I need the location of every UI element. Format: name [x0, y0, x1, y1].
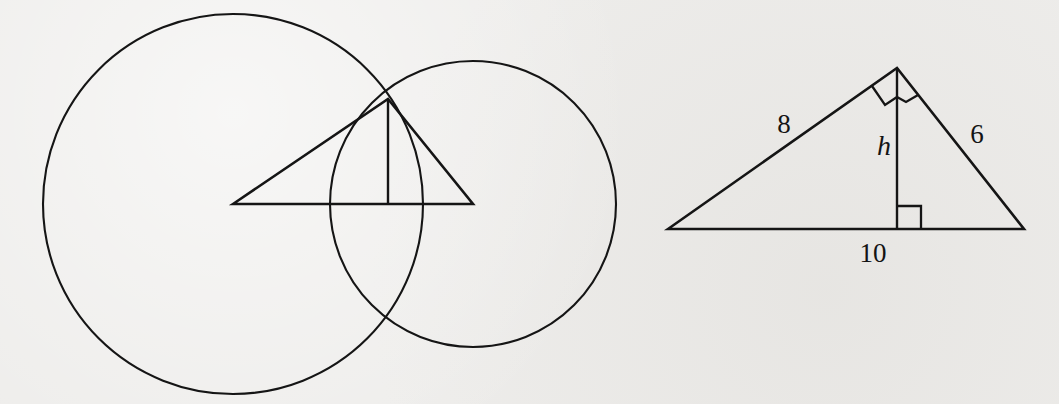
label-right-leg: 6	[970, 119, 984, 149]
label-altitude: h	[877, 130, 891, 161]
compass-construction-panel	[43, 14, 616, 394]
figure-page: 8 6 10 h	[0, 0, 1059, 404]
foot-right-angle-mark	[897, 206, 921, 229]
geometry-figure: 8 6 10 h	[0, 0, 1059, 404]
inscribed-triangle	[233, 99, 473, 204]
label-left-leg: 8	[777, 109, 791, 139]
apex-right-angle-mark-right	[897, 95, 918, 102]
label-hypotenuse: 10	[860, 238, 887, 268]
right-triangle-panel: 8 6 10 h	[668, 68, 1024, 268]
apex-right-angle-mark-left	[872, 86, 897, 105]
